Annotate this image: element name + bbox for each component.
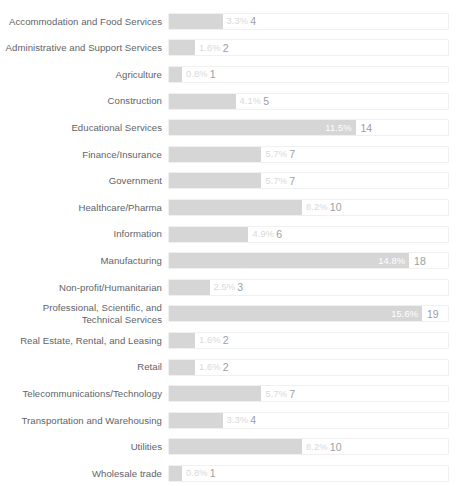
count-label: 5 <box>263 94 269 109</box>
category-label: Government <box>0 175 168 186</box>
percent-label: 1.6% <box>199 40 221 55</box>
count-label: 19 <box>427 306 439 321</box>
bar-fill <box>169 413 223 428</box>
bar-track: 3.3%4 <box>168 13 449 30</box>
category-label: Educational Services <box>0 122 168 133</box>
bar-track: 5.7%7 <box>168 146 449 163</box>
bar-fill <box>169 40 195 55</box>
count-label: 14 <box>361 120 373 135</box>
category-label: Construction <box>0 95 168 106</box>
bar-fill <box>169 386 261 401</box>
chart-row: Real Estate, Rental, and Leasing1.6%2 <box>0 327 461 354</box>
category-label: Healthcare/Pharma <box>0 202 168 213</box>
percent-label: 5.7% <box>265 173 287 188</box>
percent-label: 2.5% <box>214 280 236 295</box>
bar-track: 14.8%18 <box>168 252 449 269</box>
bar-track: 15.6%19 <box>168 305 449 322</box>
percent-label: 0.8% <box>186 67 208 82</box>
category-label: Accommodation and Food Services <box>0 16 168 27</box>
percent-label: 14.8% <box>378 256 409 266</box>
chart-row: Manufacturing14.8%18 <box>0 247 461 274</box>
percent-label: 1.6% <box>199 333 221 348</box>
chart-row: Information4.9%6 <box>0 221 461 248</box>
chart-row: Wholesale trade0.8%1 <box>0 460 461 486</box>
chart-row: Transportation and Warehousing3.3%4 <box>0 407 461 434</box>
chart-row: Finance/Insurance5.7%7 <box>0 141 461 168</box>
bar-track: 1.6%2 <box>168 359 449 376</box>
bar-track: 5.7%7 <box>168 385 449 402</box>
chart-row: Accommodation and Food Services3.3%4 <box>0 8 461 35</box>
count-label: 7 <box>289 173 295 188</box>
chart-row: Government5.7%7 <box>0 168 461 195</box>
bar-fill: 14.8% <box>169 253 409 268</box>
chart-row: Administrative and Support Services1.6%2 <box>0 35 461 62</box>
bar-fill: 11.5% <box>169 120 356 135</box>
category-label: Non-profit/Humanitarian <box>0 282 168 293</box>
bar-fill <box>169 173 261 188</box>
bar-fill <box>169 227 248 242</box>
bar-fill: 15.6% <box>169 306 422 321</box>
chart-row: Retail1.6%2 <box>0 354 461 381</box>
count-label: 1 <box>210 466 216 481</box>
chart-row: Utilities8.2%10 <box>0 434 461 461</box>
count-label: 4 <box>250 413 256 428</box>
bar-track: 3.3%4 <box>168 412 449 429</box>
bar-fill <box>169 360 195 375</box>
bar-track: 8.2%10 <box>168 199 449 216</box>
percent-label: 8.2% <box>306 200 328 215</box>
chart-row: Telecommunications/Technology5.7%7 <box>0 380 461 407</box>
count-label: 10 <box>330 200 342 215</box>
bar-fill <box>169 14 223 29</box>
percent-label: 1.6% <box>199 360 221 375</box>
count-label: 7 <box>289 147 295 162</box>
bar-track: 4.9%6 <box>168 226 449 243</box>
category-label: Utilities <box>0 441 168 452</box>
bar-fill <box>169 466 182 481</box>
percent-label: 4.1% <box>240 94 262 109</box>
bar-track: 5.7%7 <box>168 172 449 189</box>
percent-label: 15.6% <box>391 309 422 319</box>
category-label: Wholesale trade <box>0 468 168 479</box>
count-label: 4 <box>250 14 256 29</box>
bar-fill <box>169 333 195 348</box>
percent-label: 8.2% <box>306 439 328 454</box>
category-label: Transportation and Warehousing <box>0 415 168 426</box>
bar-track: 1.6%2 <box>168 39 449 56</box>
category-label: Retail <box>0 361 168 372</box>
count-label: 2 <box>223 333 229 348</box>
bar-track: 1.6%2 <box>168 332 449 349</box>
bar-track: 0.8%1 <box>168 465 449 482</box>
bar-fill <box>169 200 302 215</box>
bar-track: 8.2%10 <box>168 438 449 455</box>
bar-fill <box>169 67 182 82</box>
count-label: 1 <box>210 67 216 82</box>
category-label: Administrative and Support Services <box>0 42 168 53</box>
bar-fill <box>169 94 236 109</box>
bar-track: 11.5%14 <box>168 119 449 136</box>
bar-track: 0.8%1 <box>168 66 449 83</box>
percent-label: 4.9% <box>252 227 274 242</box>
chart-row: Professional, Scientific, and Technical … <box>0 301 461 328</box>
chart-row: Educational Services11.5%14 <box>0 114 461 141</box>
count-label: 2 <box>223 360 229 375</box>
bar-fill <box>169 280 210 295</box>
bar-track: 2.5%3 <box>168 279 449 296</box>
chart-row: Healthcare/Pharma8.2%10 <box>0 194 461 221</box>
bar-track: 4.1%5 <box>168 93 449 110</box>
chart-row: Non-profit/Humanitarian2.5%3 <box>0 274 461 301</box>
count-label: 3 <box>237 280 243 295</box>
bar-fill <box>169 439 302 454</box>
category-label: Real Estate, Rental, and Leasing <box>0 335 168 346</box>
percent-label: 0.8% <box>186 466 208 481</box>
count-label: 18 <box>414 253 426 268</box>
percent-label: 11.5% <box>325 123 355 133</box>
category-label: Finance/Insurance <box>0 149 168 160</box>
count-label: 2 <box>223 40 229 55</box>
chart-row: Construction4.1%5 <box>0 88 461 115</box>
category-label: Telecommunications/Technology <box>0 388 168 399</box>
chart-row: Agriculture0.8%1 <box>0 61 461 88</box>
bar-fill <box>169 147 261 162</box>
percent-label: 5.7% <box>265 147 287 162</box>
count-label: 6 <box>276 227 282 242</box>
